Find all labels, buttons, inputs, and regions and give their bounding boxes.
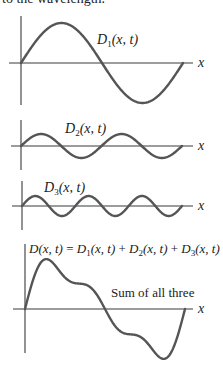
panel-sum: x D(x, t) = D1(x, t) + D2(x, t) + D3(x, … — [13, 241, 220, 359]
sum-equation: D(x, t) = D1(x, t) + D2(x, t) + D3(x, t) — [28, 241, 220, 258]
x-axis-label-d3: x — [197, 198, 205, 213]
wave-label-d2: D2(x, t) — [64, 121, 106, 138]
panel-d3: x D3(x, t) — [12, 180, 205, 230]
wave-label-d1: D1(x, t) — [96, 32, 138, 49]
panel-d1: x D1(x, t) — [9, 16, 205, 105]
wave-label-d3: D3(x, t) — [43, 180, 85, 197]
panel-d2: x D2(x, t) — [11, 120, 205, 170]
wave-superposition-diagram: x D1(x, t) x D2(x, t) x D3(x, t) x D(x, … — [0, 0, 223, 374]
sum-annotation: Sum of all three — [111, 285, 195, 300]
x-axis-label-d1: x — [197, 55, 205, 70]
x-axis-label-d2: x — [197, 138, 205, 153]
x-axis-label-sum: x — [197, 301, 205, 316]
